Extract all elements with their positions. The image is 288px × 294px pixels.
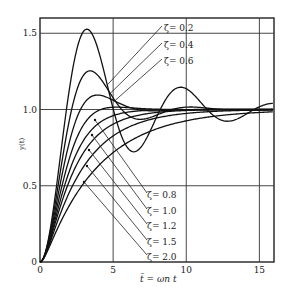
y-axis-label: y(t) (18, 138, 26, 151)
series-labels: ζ= 0.2ζ= 0.4ζ= 0.6ζ= 0.8ζ= 1.0ζ= 1.2ζ= 1… (83, 23, 194, 262)
series-label: ζ= 0.4 (164, 40, 194, 50)
series-label: ζ= 0.8 (147, 190, 177, 200)
leader-line (115, 59, 162, 101)
x-tick-label: 15 (254, 265, 266, 275)
y-tick-label: 1.0 (23, 105, 38, 115)
curve-zeta-0.4 (40, 71, 273, 262)
y-tick-label: 0 (31, 257, 37, 267)
x-tick-label: 0 (37, 265, 43, 275)
leader-dot (88, 149, 90, 151)
leader-dot (83, 181, 85, 183)
series-label: ζ= 1.2 (147, 221, 177, 231)
leader-line (87, 166, 147, 240)
leader-line (107, 26, 162, 85)
series-label: ζ= 2.0 (147, 252, 177, 262)
leader-dot (94, 119, 96, 121)
y-tick-label: 0.5 (23, 181, 38, 191)
x-axis-label: t̄ = ωn t (140, 273, 177, 284)
y-tick-label: 1.5 (23, 28, 38, 38)
leader-line (110, 43, 162, 93)
x-tick-label: 10 (181, 265, 193, 275)
series-label: ζ= 1.5 (147, 237, 177, 247)
leader-line (89, 150, 147, 224)
step-response-chart: ζ= 0.2ζ= 0.4ζ= 0.6ζ= 0.8ζ= 1.0ζ= 1.2ζ= 1… (0, 0, 288, 294)
plot-svg: ζ= 0.2ζ= 0.4ζ= 0.6ζ= 0.8ζ= 1.0ζ= 1.2ζ= 1… (0, 0, 288, 294)
leader-line (92, 135, 147, 209)
leader-dot (86, 165, 88, 167)
tick-labels: 05101500.51.01.5 (23, 28, 266, 275)
x-tick-label: 5 (110, 265, 116, 275)
series-label: ζ= 1.0 (147, 206, 177, 216)
series-label: ζ= 0.6 (164, 56, 194, 66)
series-label: ζ= 0.2 (164, 23, 194, 33)
leader-dot (91, 134, 93, 136)
leader-line (84, 182, 147, 255)
